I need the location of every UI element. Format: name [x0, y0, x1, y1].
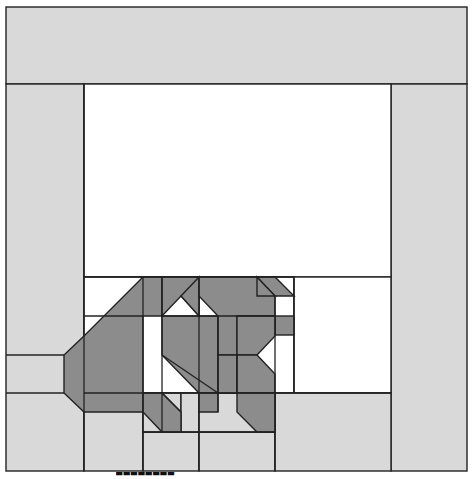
mid-light-cell-b [181, 393, 199, 432]
left-column [6, 84, 84, 471]
right-white-cell [294, 277, 391, 393]
right-column [391, 84, 467, 471]
bottom-cell-2 [143, 432, 199, 471]
central-white-area [84, 84, 391, 277]
top-band [6, 7, 467, 84]
bottom-cell-3 [199, 432, 275, 471]
tiling-diagram [0, 0, 473, 479]
bottom-cell-4 [275, 393, 391, 471]
cut-off-caption: ▀▀▀▀▀▀▀▀ [116, 472, 175, 479]
